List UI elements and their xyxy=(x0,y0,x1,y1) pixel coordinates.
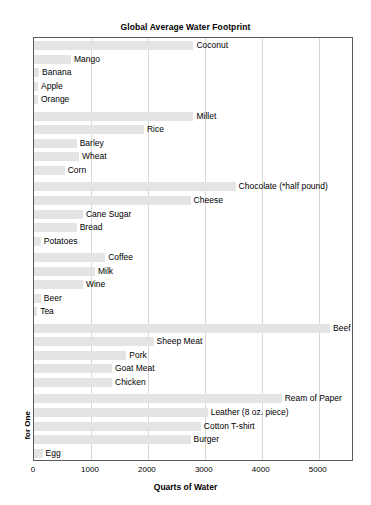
bar-wine xyxy=(34,280,83,289)
bars-layer: CoconutMangoBananaAppleOrangeMilletRiceB… xyxy=(34,38,352,460)
bar-coconut xyxy=(34,41,193,50)
bar-barley xyxy=(34,139,77,148)
bar-cane-sugar xyxy=(34,210,83,219)
bar-label: Tea xyxy=(40,306,54,317)
bar-label: Burger xyxy=(194,434,220,445)
bar-label: Goat Meat xyxy=(115,363,155,374)
bar-row: Milk xyxy=(34,267,353,276)
x-tick-5000: 5000 xyxy=(309,465,327,474)
bar-ream-of-paper xyxy=(34,394,282,403)
bar-row: Beer xyxy=(34,294,353,303)
bar-label: Bread xyxy=(80,222,103,233)
bar-chicken xyxy=(34,378,112,387)
bar-milk xyxy=(34,267,95,276)
bar-label: Corn xyxy=(68,165,86,176)
bar-row: Pork xyxy=(34,351,353,360)
bar-label: Millet xyxy=(196,111,216,122)
bar-row: Bread xyxy=(34,223,353,232)
bar-cheese xyxy=(34,196,191,205)
bar-row: Cotton T-shirt xyxy=(34,422,353,431)
bar-label: Banana xyxy=(42,67,71,78)
chart-title: Global Average Water Footprint xyxy=(0,22,371,32)
bar-label: Chicken xyxy=(115,377,146,388)
bar-row: Apple xyxy=(34,82,353,91)
bar-beef xyxy=(34,324,330,333)
bar-label: Cotton T-shirt xyxy=(204,421,255,432)
bar-label: Coconut xyxy=(196,40,228,51)
bar-label: Milk xyxy=(98,266,113,277)
group-label-0: for One Fruit xyxy=(14,37,32,108)
bar-row: Chocolate (*half pound) xyxy=(34,182,353,191)
bar-row: Potatoes xyxy=(34,237,353,246)
bar-row: Burger xyxy=(34,435,353,444)
bar-row: Egg xyxy=(34,449,353,458)
bar-row: Ream of Paper xyxy=(34,394,353,403)
x-tick-3000: 3000 xyxy=(195,465,213,474)
bar-label: Mango xyxy=(74,54,100,65)
bar-potatoes xyxy=(34,237,41,246)
bar-leather-8-oz-piece xyxy=(34,408,208,417)
bar-label: Rice xyxy=(147,124,164,135)
bar-wheat xyxy=(34,152,79,161)
bar-rice xyxy=(34,125,144,134)
bar-label: Orange xyxy=(41,94,69,105)
bar-orange xyxy=(34,95,38,104)
group-label-4: for One Steak xyxy=(14,320,32,391)
x-tick-2000: 2000 xyxy=(138,465,156,474)
bar-row: Goat Meat xyxy=(34,364,353,373)
bar-millet xyxy=(34,112,193,121)
bar-label: Sheep Meat xyxy=(157,336,203,347)
bar-label: Cane Sugar xyxy=(86,209,131,220)
plot-area: CoconutMangoBananaAppleOrangeMilletRiceB… xyxy=(33,37,353,461)
group-label-5: for One xyxy=(14,390,32,461)
bar-row: Cheese xyxy=(34,196,353,205)
bar-row: Leather (8 oz. piece) xyxy=(34,408,353,417)
group-axis: for One Fruitfor One Poundfor One Pound*… xyxy=(14,37,32,461)
bar-coffee xyxy=(34,253,105,262)
bar-pork xyxy=(34,351,126,360)
x-axis-tick-labels: 010002000300040005000 xyxy=(33,462,353,476)
bar-label: Potatoes xyxy=(44,236,78,247)
bar-row: Millet xyxy=(34,112,353,121)
bar-corn xyxy=(34,166,65,175)
bar-label: Leather (8 oz. piece) xyxy=(211,407,289,418)
x-tick-4000: 4000 xyxy=(252,465,270,474)
bar-mango xyxy=(34,55,71,64)
bar-goat-meat xyxy=(34,364,112,373)
bar-label: Wine xyxy=(86,279,105,290)
bar-label: Chocolate (*half pound) xyxy=(239,181,328,192)
bar-row: Wine xyxy=(34,280,353,289)
bar-row: Wheat xyxy=(34,152,353,161)
bar-bread xyxy=(34,223,77,232)
bar-label: Coffee xyxy=(108,252,133,263)
bar-row: Cane Sugar xyxy=(34,210,353,219)
bar-apple xyxy=(34,82,38,91)
bar-row: Barley xyxy=(34,139,353,148)
bar-label: Wheat xyxy=(82,151,107,162)
bar-burger xyxy=(34,435,191,444)
bar-row: Coconut xyxy=(34,41,353,50)
bar-row: Chicken xyxy=(34,378,353,387)
bar-chocolate-half-pound xyxy=(34,182,236,191)
bar-row: Mango xyxy=(34,55,353,64)
bar-egg xyxy=(34,449,43,458)
x-tick-0: 0 xyxy=(31,465,35,474)
bar-label: Ream of Paper xyxy=(285,393,342,404)
x-tick-1000: 1000 xyxy=(81,465,99,474)
water-footprint-chart: Global Average Water Footprint for One F… xyxy=(0,0,371,505)
bar-row: Beef xyxy=(34,324,353,333)
bar-banana xyxy=(34,68,39,77)
group-label-2: for One Pound* xyxy=(14,178,32,249)
bar-label: Pork xyxy=(129,350,146,361)
bar-label: Apple xyxy=(41,81,63,92)
group-label-3: for One Quart xyxy=(14,249,32,320)
group-label-1: for One Pound xyxy=(14,108,32,179)
bar-row: Orange xyxy=(34,95,353,104)
bar-label: Egg xyxy=(46,448,61,459)
bar-sheep-meat xyxy=(34,337,154,346)
bar-row: Tea xyxy=(34,307,353,316)
bar-row: Rice xyxy=(34,125,353,134)
bar-tea xyxy=(34,307,37,316)
bar-cotton-t-shirt xyxy=(34,422,201,431)
bar-label: Barley xyxy=(80,138,104,149)
